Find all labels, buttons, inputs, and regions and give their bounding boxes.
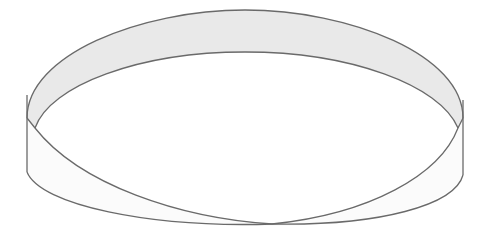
band-front-surface	[27, 118, 463, 226]
mobius-strip-figure	[0, 0, 490, 236]
band-top-surface	[27, 10, 463, 128]
mobius-strip-drawing	[0, 0, 490, 236]
